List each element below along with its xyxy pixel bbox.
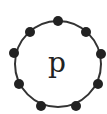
node-dot [14, 79, 24, 89]
node-dot [93, 79, 103, 89]
node-dot [25, 27, 35, 37]
circular-diagram: p [0, 0, 107, 114]
node-dot [36, 101, 46, 111]
node-dot [96, 49, 106, 59]
node-dot [53, 16, 63, 26]
node-dot [71, 101, 81, 111]
center-label: p [48, 46, 66, 79]
node-dot [9, 48, 19, 58]
node-dot [81, 27, 91, 37]
